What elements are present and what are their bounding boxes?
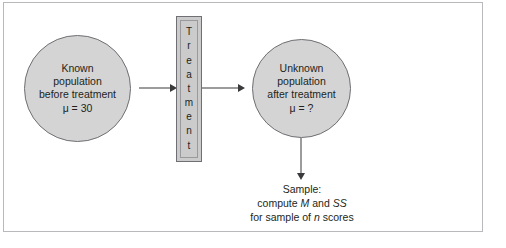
treatment-letter-3: e	[186, 54, 192, 68]
arrow-shaft	[301, 138, 302, 173]
sample-compute-middle: and	[309, 197, 332, 209]
statistic-ss-symbol: SS	[333, 197, 347, 209]
unknown-population-line-1: Unknown	[280, 62, 324, 75]
known-population-node: Known population before treatment μ = 30	[24, 35, 131, 142]
sample-caption: Sample: compute M and SS for sample of n…	[212, 182, 392, 224]
treatment-letter-6: m	[185, 96, 193, 110]
treatment-letter-4: a	[186, 68, 192, 82]
unknown-population-line-2: population	[277, 75, 325, 88]
sample-size-prefix: for sample of	[250, 211, 314, 223]
treatment-label: T r e a t m e n t	[185, 25, 193, 153]
unknown-population-line-3: after treatment	[267, 88, 335, 101]
sample-caption-line-2: compute M and SS	[212, 196, 392, 210]
arrow-shaft	[139, 88, 170, 89]
known-population-mean: μ = 30	[63, 102, 93, 115]
arrow-head	[238, 84, 245, 92]
treatment-letter-5: t	[188, 82, 191, 96]
unknown-population-mean: μ = ?	[290, 102, 314, 115]
treatment-letter-2: r	[187, 39, 190, 53]
sample-size-suffix: scores	[320, 211, 354, 223]
research-design-diagram: Known population before treatment μ = 30…	[0, 0, 506, 248]
known-population-line-3: before treatment	[39, 88, 116, 101]
arrow-shaft	[202, 88, 238, 89]
arrow-population-to-treatment-icon	[139, 82, 177, 94]
treatment-letter-8: n	[186, 124, 192, 138]
sample-caption-line-1: Sample:	[212, 182, 392, 196]
treatment-letter-9: t	[188, 139, 191, 153]
arrow-treatment-to-population-icon	[202, 82, 246, 94]
unknown-population-node: Unknown population after treatment μ = ?	[252, 39, 351, 138]
sample-caption-line-3: for sample of n scores	[212, 210, 392, 224]
arrow-population-to-sample-icon	[295, 138, 307, 180]
statistic-mean-symbol: M	[301, 197, 310, 209]
known-population-line-2: population	[53, 75, 101, 88]
arrow-head	[297, 173, 305, 180]
treatment-letter-7: e	[186, 110, 192, 124]
treatment-letter-1: T	[186, 25, 192, 39]
known-population-line-1: Known	[61, 62, 93, 75]
treatment-node: T r e a t m e n t	[176, 16, 202, 162]
sample-compute-prefix: compute	[257, 197, 300, 209]
